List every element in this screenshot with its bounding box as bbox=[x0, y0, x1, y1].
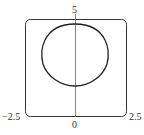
x-max-label: 2.5 bbox=[129, 112, 142, 122]
plot-svg bbox=[0, 0, 144, 135]
plot-frame bbox=[26, 20, 127, 117]
curve bbox=[42, 24, 109, 86]
x-zero-label: 0 bbox=[72, 120, 77, 130]
y-max-label: 5 bbox=[72, 5, 77, 15]
x-min-label: −2.5 bbox=[2, 112, 20, 122]
